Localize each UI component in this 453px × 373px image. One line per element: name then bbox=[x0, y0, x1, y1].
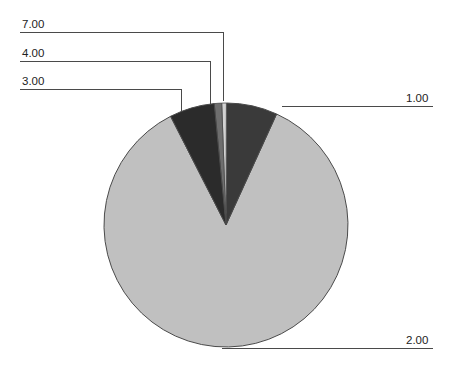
callout-label-2: 2.00 bbox=[406, 334, 428, 346]
callout-label-1: 1.00 bbox=[406, 92, 428, 104]
callout-label-7: 7.00 bbox=[22, 18, 44, 30]
callout-label-3: 3.00 bbox=[22, 75, 44, 87]
pie-slices bbox=[104, 103, 348, 347]
leader-line-3 bbox=[20, 89, 181, 116]
pie-chart-figure: 7.00 4.00 3.00 1.00 2.00 bbox=[0, 0, 453, 373]
pie-chart-svg: 7.00 4.00 3.00 1.00 2.00 bbox=[0, 0, 453, 373]
callout-label-4: 4.00 bbox=[22, 47, 44, 59]
leader-line-7 bbox=[20, 32, 223, 101]
